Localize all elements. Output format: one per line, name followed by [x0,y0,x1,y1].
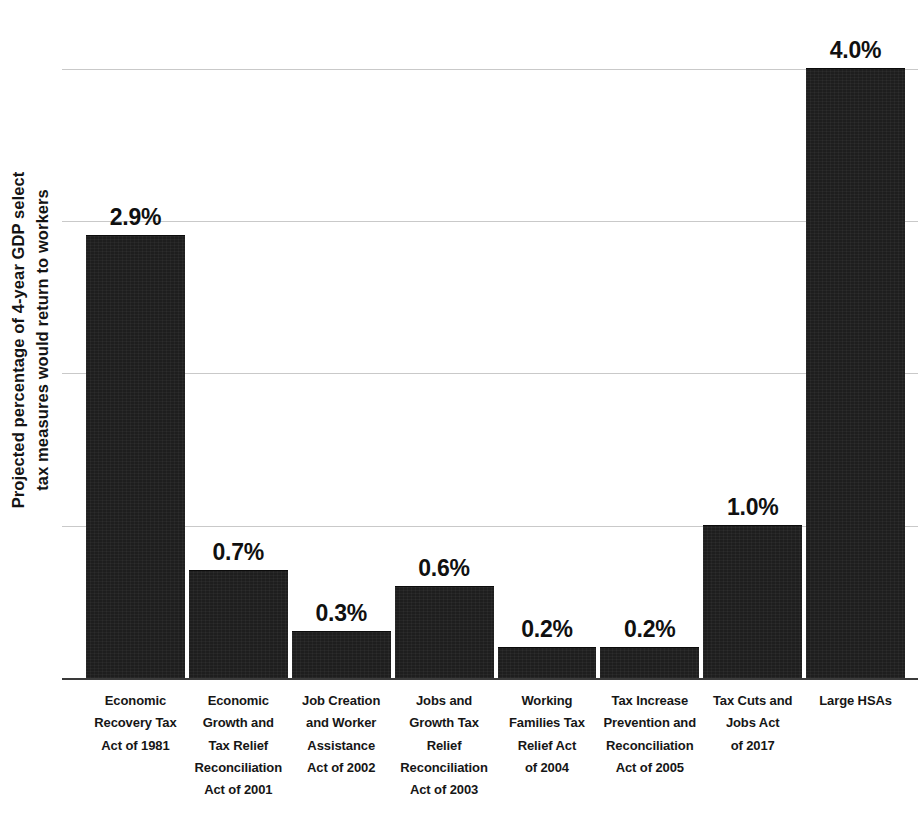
category-label-line: Prevention and [600,712,699,734]
category-label-line: Tax Cuts and [703,690,802,712]
bar-chart-figure: Projected percentage of 4-year GDP selec… [0,0,924,814]
x-axis-category-label: WorkingFamilies TaxRelief Actof 2004 [498,684,597,810]
category-label-line: Act of 2003 [395,779,494,801]
bar [806,68,905,678]
category-label-line: Act of 2001 [189,779,288,801]
category-label-line: Relief Act [498,735,597,757]
category-label-line: Families Tax [498,712,597,734]
category-label-line: Reconciliation [189,757,288,779]
category-label-line: Recovery Tax [86,712,185,734]
bar-value-label: 0.2% [498,618,597,641]
category-label-line: Relief [395,735,494,757]
bar-value-label: 0.2% [600,618,699,641]
bar [395,586,494,678]
category-label-line: Reconciliation [600,735,699,757]
x-axis-category-label: EconomicRecovery TaxAct of 1981 [86,684,185,810]
category-label-line: Growth Tax [395,712,494,734]
category-label-line: and Worker [292,712,391,734]
category-label-line: Job Creation [292,690,391,712]
category-label-line: Jobs Act [703,712,802,734]
x-axis-category-label: Large HSAs [806,684,905,810]
bar-group: 1.0% [703,8,802,678]
y-axis-title-line-2: tax measures would return to workers [31,172,55,509]
bar-value-label: 0.6% [395,557,494,580]
y-axis-title-line-1: Projected percentage of 4-year GDP selec… [9,172,27,509]
bar [498,647,597,678]
bar-group: 4.0% [806,8,905,678]
bar-group: 0.2% [498,8,597,678]
category-label-line: Act of 2005 [600,757,699,779]
bar-group: 0.3% [292,8,391,678]
x-axis-category-label: EconomicGrowth andTax ReliefReconciliati… [189,684,288,810]
bar-value-label: 0.7% [189,541,288,564]
category-label-line: Economic [189,690,288,712]
y-axis-title: Projected percentage of 4-year GDP selec… [0,0,62,680]
bar-group: 0.7% [189,8,288,678]
category-label-line: Tax Increase [600,690,699,712]
x-axis-category-label: Tax IncreasePrevention andReconciliation… [600,684,699,810]
category-label-line: Act of 2002 [292,757,391,779]
x-axis-category-labels: EconomicRecovery TaxAct of 1981EconomicG… [62,684,918,810]
x-axis-category-label: Job Creationand WorkerAssistanceAct of 2… [292,684,391,810]
bar-value-label: 0.3% [292,602,391,625]
bar-group: 2.9% [86,8,185,678]
bar [292,631,391,678]
bar [189,570,288,678]
category-label-line: Assistance [292,735,391,757]
plot-area: 2.9%0.7%0.3%0.6%0.2%0.2%1.0%4.0% [62,8,918,680]
category-label-line: Tax Relief [189,735,288,757]
bar [86,235,185,678]
bar-group: 0.6% [395,8,494,678]
bar-group: 0.2% [600,8,699,678]
category-label-line: Growth and [189,712,288,734]
bar [703,525,802,678]
category-label-line: Economic [86,690,185,712]
bars-layer: 2.9%0.7%0.3%0.6%0.2%0.2%1.0%4.0% [62,8,918,678]
bar-value-label: 1.0% [703,496,802,519]
category-label-line: Working [498,690,597,712]
category-label-line: Large HSAs [806,690,905,712]
x-axis-category-label: Jobs andGrowth TaxReliefReconciliationAc… [395,684,494,810]
category-label-line: of 2004 [498,757,597,779]
bar [600,647,699,678]
x-axis-category-label: Tax Cuts andJobs Actof 2017 [703,684,802,810]
bar-value-label: 2.9% [86,206,185,229]
category-label-line: Jobs and [395,690,494,712]
category-label-line: Reconciliation [395,757,494,779]
category-label-line: of 2017 [703,735,802,757]
category-label-line: Act of 1981 [86,735,185,757]
x-axis-baseline [62,678,918,680]
bar-value-label: 4.0% [806,39,905,62]
